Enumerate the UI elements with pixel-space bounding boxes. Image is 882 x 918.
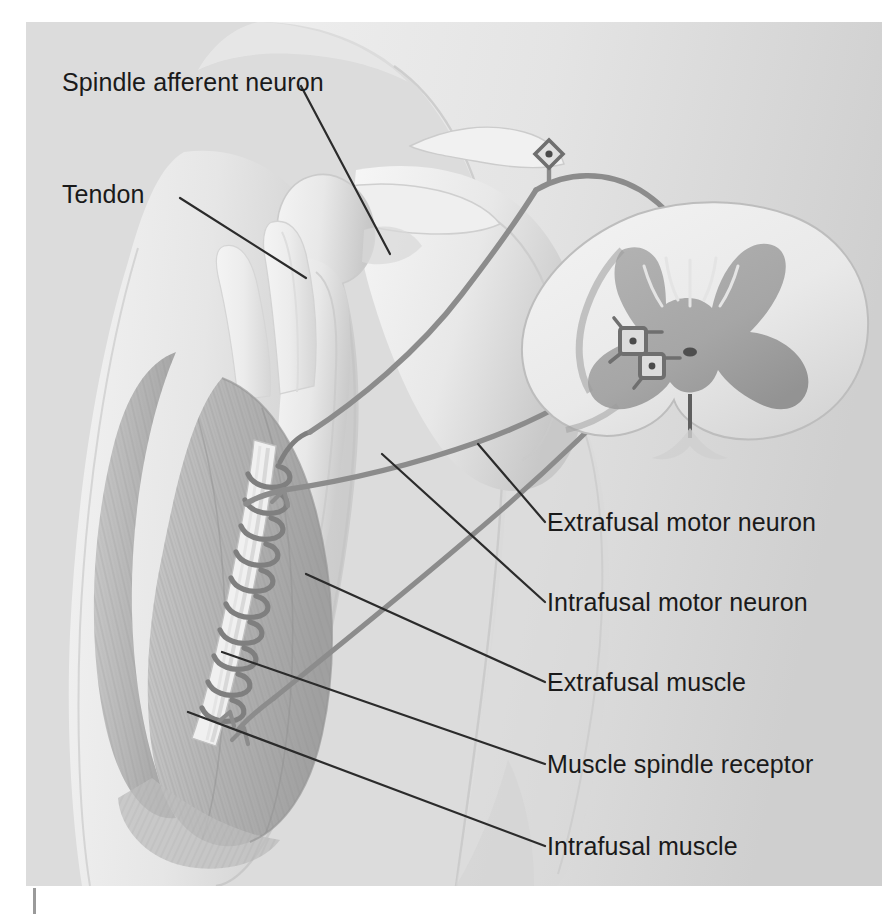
label-intrafusal-motor-neuron: Intrafusal motor neuron — [547, 590, 808, 615]
label-tendon: Tendon — [62, 182, 145, 207]
plate-edge-tick-mark — [33, 888, 36, 914]
label-muscle-spindle-receptor: Muscle spindle receptor — [547, 752, 813, 777]
label-extrafusal-muscle: Extrafusal muscle — [547, 670, 746, 695]
illustration-plate: Spindle afferent neuron Tendon Extrafusa… — [26, 22, 882, 886]
central-canal — [683, 348, 697, 357]
label-spindle-afferent-neuron: Spindle afferent neuron — [62, 70, 324, 95]
figure-root: Spindle afferent neuron Tendon Extrafusa… — [0, 0, 882, 918]
label-intrafusal-muscle: Intrafusal muscle — [547, 834, 738, 859]
label-extrafusal-motor-neuron: Extrafusal motor neuron — [547, 510, 816, 535]
